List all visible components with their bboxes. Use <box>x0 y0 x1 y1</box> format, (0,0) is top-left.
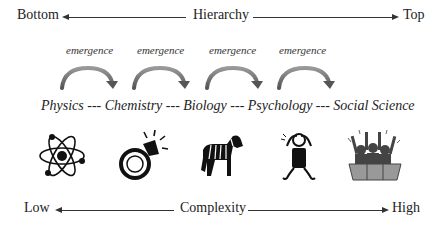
diamond-ring-icon <box>115 130 170 182</box>
emergence-label-2: emergence <box>137 44 184 56</box>
complexity-line-left <box>59 210 174 211</box>
complexity-center-label: Complexity <box>180 200 246 216</box>
curved-arrow-icon <box>275 64 339 90</box>
hierarchy-line-right <box>253 17 393 18</box>
disciplines-text: Physics --- Chemistry --- Biology --- Ps… <box>41 98 415 114</box>
curved-arrow-icon <box>203 64 267 90</box>
emergence-label-4: emergence <box>279 44 326 56</box>
complexity-low-label: Low <box>24 200 50 216</box>
complexity-line-right <box>248 210 383 211</box>
complexity-high-label: High <box>392 200 420 216</box>
arrow-right-icon <box>382 207 389 213</box>
zebra-icon <box>197 130 245 182</box>
atom-icon <box>36 130 88 182</box>
hierarchy-line-left <box>66 17 186 18</box>
cheering-crowd-icon <box>345 128 405 184</box>
hierarchy-top-label: Top <box>403 7 425 23</box>
hierarchy-center-label: Hierarchy <box>193 7 249 23</box>
stressed-person-icon <box>277 130 321 184</box>
curved-arrow-icon <box>58 64 122 90</box>
hierarchy-bottom-label: Bottom <box>17 7 59 23</box>
emergence-label-1: emergence <box>66 44 113 56</box>
emergence-label-3: emergence <box>209 44 256 56</box>
arrow-right-icon <box>392 14 399 20</box>
curved-arrow-icon <box>130 64 194 90</box>
